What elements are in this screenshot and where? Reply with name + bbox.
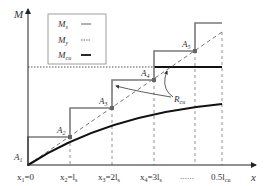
x-tick-labels: x1=0 x2=ls x3=2ls x4=3ls …… 0.5lcu — [17, 172, 230, 183]
y-axis-label: M — [13, 8, 24, 20]
legend: Ms My Mcu — [48, 14, 106, 64]
x-tick-4: x4=3ls — [140, 172, 163, 183]
point-label-a4: A4 — [140, 68, 150, 79]
point-label-a5: A5 — [181, 39, 191, 50]
point-label-a2: A2 — [56, 125, 66, 136]
point-label-a1: A1 — [13, 152, 23, 163]
x-axis-label: x — [250, 171, 256, 183]
x-tick-1: x1=0 — [17, 172, 35, 183]
x-tick-3: x3=2ls — [98, 172, 121, 183]
rcu-label: Rcu — [173, 94, 185, 105]
x-tick-2: x2=ls — [60, 172, 78, 183]
point-label-a3: A3 — [98, 96, 108, 107]
x-tick-end: 0.5lcu — [211, 172, 230, 183]
moment-diagram: M x Ms My Mcu A1 A2 A3 A4 A5 Rcu — [0, 0, 265, 186]
x-tick-ellipsis: …… — [180, 173, 194, 181]
rcu-annotation: Rcu — [116, 71, 185, 105]
